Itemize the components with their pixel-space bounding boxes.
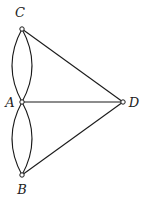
node-a bbox=[20, 100, 24, 104]
label-b: B bbox=[16, 182, 27, 197]
edge-a-b-right bbox=[22, 102, 32, 175]
label-c: C bbox=[15, 5, 25, 20]
node-b bbox=[20, 173, 24, 177]
label-a: A bbox=[4, 95, 14, 110]
edge-b-d bbox=[22, 102, 123, 175]
label-d: D bbox=[128, 95, 140, 110]
edge-c-a-right bbox=[22, 29, 32, 102]
edge-c-a-left bbox=[12, 29, 22, 102]
graph-diagram: C A B D bbox=[0, 0, 148, 203]
node-c bbox=[20, 27, 24, 31]
node-d bbox=[121, 100, 125, 104]
edge-a-b-left bbox=[12, 102, 22, 175]
edge-c-d bbox=[22, 29, 123, 102]
